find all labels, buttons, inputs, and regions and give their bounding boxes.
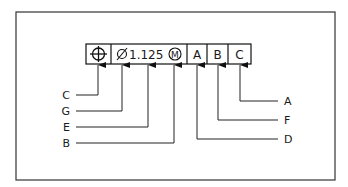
datum-secondary: B — [213, 48, 221, 62]
callout-label: A — [284, 95, 292, 108]
left-leaders — [76, 65, 174, 143]
feature-control-frame: 1.125 M A B C — [86, 44, 251, 64]
callout-label: E — [63, 121, 70, 134]
callout-label: G — [61, 105, 70, 118]
callout-label: D — [284, 133, 292, 146]
fcf-diagram: 1.125 M A B C C G E B A F D — [0, 0, 348, 187]
tolerance-value: 1.125 — [129, 48, 163, 62]
callout-label: F — [284, 114, 290, 127]
svg-text:M: M — [171, 50, 179, 60]
right-leaders — [197, 65, 278, 139]
callout-label: C — [62, 89, 70, 102]
datum-tertiary: C — [235, 48, 243, 62]
callout-label: B — [62, 137, 70, 150]
datum-primary: A — [193, 48, 202, 62]
